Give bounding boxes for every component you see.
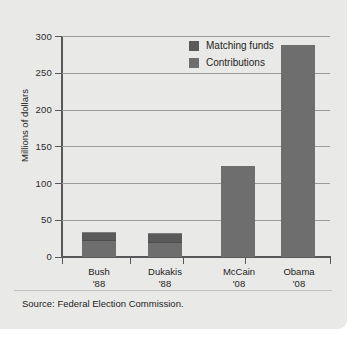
x-category-label-obama-08: Obama '08 (262, 266, 336, 290)
bar-segment-matching-funds (221, 166, 255, 257)
x-category-label-bush-88: Bush '88 (62, 266, 136, 290)
bar-mccain-08 (221, 166, 255, 257)
bar-bush-88 (82, 232, 116, 257)
legend-swatch-icon (189, 58, 199, 68)
x-category-year: '08 (262, 278, 336, 290)
gridline-300 (62, 36, 330, 37)
y-tick-label-300: 300 (18, 31, 52, 42)
bar-segment-contributions (281, 45, 315, 257)
source-note: Source: Federal Election Commission. (22, 298, 184, 309)
bar-segment-contributions (148, 243, 182, 257)
legend-label: Contributions (206, 57, 265, 68)
legend-item-matching-funds: Matching funds (189, 38, 319, 53)
chart-legend: Matching funds Contributions (189, 38, 319, 72)
bar-segment-contributions (82, 241, 116, 257)
chart-figure-panel: Millions of dollars 300 250 200 150 100 … (0, 0, 347, 329)
y-tick-label-200: 200 (18, 104, 52, 115)
x-category-name: Bush (88, 266, 110, 277)
x-category-name: McCain (223, 266, 255, 277)
x-category-year: '88 (128, 278, 202, 290)
y-tick-label-100: 100 (18, 178, 52, 189)
y-tick-label-150: 150 (18, 141, 52, 152)
legend-item-contributions: Contributions (189, 55, 319, 70)
y-tick-label-0: 0 (18, 251, 52, 262)
legend-label: Matching funds (206, 40, 274, 51)
bar-obama-08 (281, 45, 315, 257)
bar-dukakis-88 (148, 233, 182, 257)
x-tick-mark-1 (130, 258, 131, 264)
x-tick-mark-3 (245, 258, 246, 264)
x-category-name: Dukakis (148, 266, 182, 277)
x-category-label-dukakis-88: Dukakis '88 (128, 266, 202, 290)
x-tick-mark-0 (62, 258, 63, 264)
x-category-name: Obama (283, 266, 314, 277)
bar-segment-matching-funds (82, 232, 116, 241)
x-category-year: '88 (62, 278, 136, 290)
y-tick-label-50: 50 (18, 214, 52, 225)
y-tick-label-250: 250 (18, 67, 52, 78)
source-divider (14, 290, 332, 291)
bar-segment-matching-funds (148, 233, 182, 243)
x-tick-mark-4 (330, 258, 331, 264)
y-axis-tick-labels: 300 250 200 150 100 50 0 (14, 0, 52, 329)
legend-swatch-icon (189, 41, 199, 51)
x-tick-mark-2 (183, 258, 184, 264)
